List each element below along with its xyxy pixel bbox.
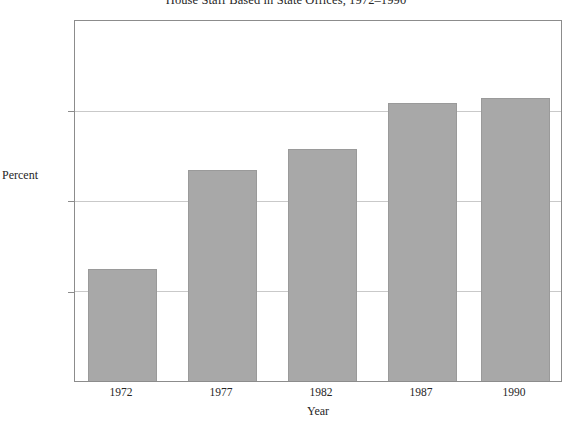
chart-title: House Staff Based in State Offices, 1972… xyxy=(0,0,572,8)
bar-series xyxy=(75,21,561,381)
bar-1982[interactable] xyxy=(288,149,357,381)
x-tick-label-1982: 1982 xyxy=(310,386,333,398)
x-axis-title: Year xyxy=(74,404,562,419)
x-tick-label-1990: 1990 xyxy=(503,386,526,398)
bar-1987[interactable] xyxy=(388,103,457,381)
bar-1990[interactable] xyxy=(481,98,550,382)
bar-1977[interactable] xyxy=(188,170,257,381)
chart-figure: House Staff Based in State Offices, 1972… xyxy=(0,0,572,421)
bar-1972[interactable] xyxy=(88,269,157,381)
x-tick-label-1977: 1977 xyxy=(210,386,233,398)
plot-area xyxy=(74,20,562,382)
y-axis-title: Percent xyxy=(2,168,38,183)
x-tick-label-1987: 1987 xyxy=(410,386,433,398)
x-tick-label-1972: 1972 xyxy=(110,386,133,398)
